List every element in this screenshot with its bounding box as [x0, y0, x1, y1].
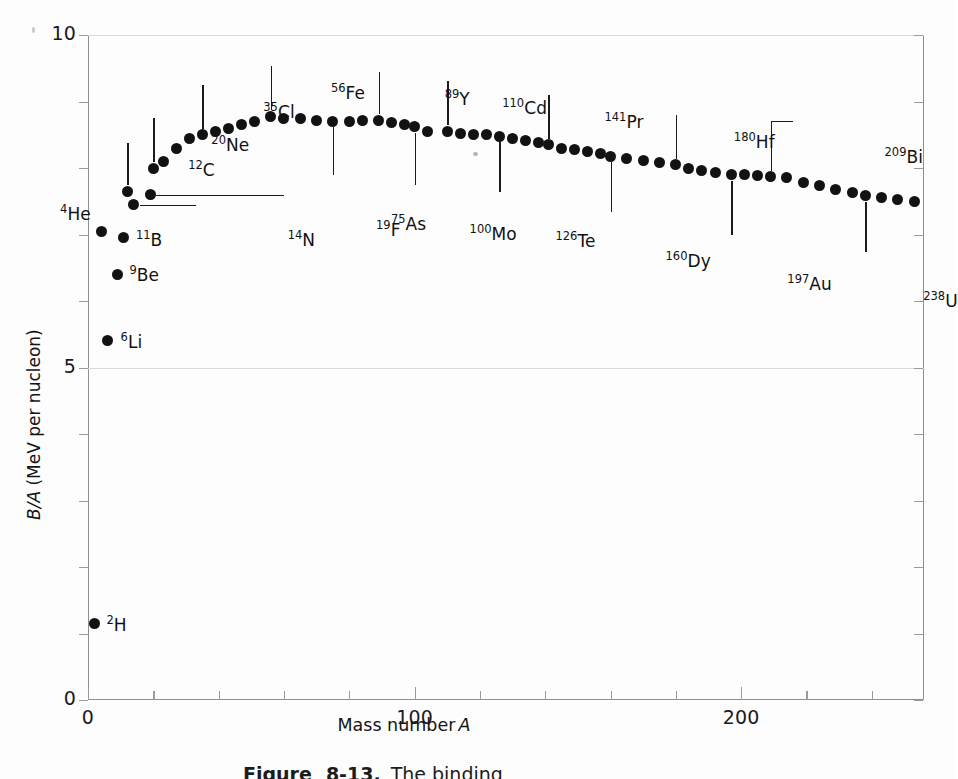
- data-point: [96, 226, 107, 237]
- data-point: [909, 196, 920, 207]
- y-tick-right: [914, 102, 923, 103]
- caption-text: The binding: [391, 763, 503, 779]
- data-point: [122, 186, 133, 197]
- plot-area: 2H6Li9Be11B4He12C20Ne35Cl56Fe89Y110Cd141…: [88, 35, 924, 700]
- y-tick-right: [914, 301, 923, 302]
- leader-line: [771, 121, 793, 122]
- y-tick-right: [914, 434, 923, 435]
- data-point: [112, 269, 123, 280]
- nuclide-label-197Au: 197Au: [787, 272, 832, 294]
- x-axis-title: Mass numberA: [338, 715, 471, 735]
- data-point: [128, 199, 139, 210]
- leader-line: [611, 162, 612, 212]
- data-point: [357, 115, 368, 126]
- data-point: [158, 156, 169, 167]
- data-point: [654, 157, 665, 168]
- y-tick-right: [914, 35, 923, 36]
- data-point: [847, 187, 858, 198]
- nuclide-label-19F: 19F: [376, 218, 401, 240]
- leader-line: [202, 85, 203, 129]
- data-point: [468, 129, 479, 140]
- nuclide-label-2H: 2H: [107, 613, 127, 635]
- data-point: [752, 170, 763, 181]
- data-point: [295, 113, 306, 124]
- leader-line: [415, 133, 416, 185]
- nuclide-label-141Pr: 141Pr: [604, 110, 643, 132]
- leader-line: [499, 142, 500, 192]
- data-point: [670, 159, 681, 170]
- nuclide-label-160Dy: 160Dy: [666, 249, 711, 271]
- nuclide-label-100Mo: 100Mo: [470, 222, 517, 244]
- data-point: [876, 192, 887, 203]
- x-tick: [219, 691, 220, 700]
- nuclide-label-89Y: 89Y: [445, 87, 470, 109]
- nuclide-label-9Be: 9Be: [129, 263, 159, 285]
- data-point: [148, 163, 159, 174]
- y-tick-right: [914, 700, 923, 701]
- leader-line: [548, 95, 549, 139]
- nuclide-label-14N: 14N: [288, 228, 315, 250]
- data-point: [710, 167, 721, 178]
- leader-line: [676, 115, 677, 159]
- nuclide-label-20Ne: 20Ne: [211, 133, 249, 155]
- y-tick: [79, 235, 88, 236]
- data-point: [605, 151, 616, 162]
- data-point: [507, 133, 518, 144]
- nuclide-label-6Li: 6Li: [121, 330, 143, 352]
- data-point: [102, 335, 113, 346]
- data-point: [409, 121, 420, 132]
- leader-line: [333, 127, 334, 175]
- leader-line: [731, 181, 732, 235]
- y-tick-label: 10: [6, 22, 76, 44]
- gridline-y: [88, 368, 924, 369]
- data-point: [726, 169, 737, 180]
- x-tick: [545, 691, 546, 700]
- data-point: [442, 126, 453, 137]
- data-point: [683, 163, 694, 174]
- leader-line: [140, 205, 196, 206]
- nuclide-label-35Cl: 35Cl: [263, 100, 294, 122]
- data-point: [422, 126, 433, 137]
- x-tick: [153, 691, 154, 700]
- leader-line: [379, 72, 380, 114]
- data-point: [118, 232, 129, 243]
- data-point: [236, 119, 247, 130]
- data-point: [327, 116, 338, 127]
- data-point: [171, 143, 182, 154]
- data-point: [582, 146, 593, 157]
- caption-label: Figure: [243, 763, 312, 779]
- x-tick: [872, 691, 873, 700]
- data-point: [184, 133, 195, 144]
- y-tick-right: [914, 168, 923, 169]
- x-tick: [741, 687, 742, 700]
- y-tick: [79, 368, 88, 369]
- nuclide-label-4He: 4He: [60, 202, 91, 224]
- data-point: [814, 180, 825, 191]
- nuclide-label-11B: 11B: [136, 228, 162, 250]
- nuclide-label-110Cd: 110Cd: [502, 96, 547, 118]
- y-axis-title-units: (MeV per nucleon): [24, 329, 44, 491]
- data-point: [386, 117, 397, 128]
- data-point: [696, 165, 707, 176]
- y-tick: [79, 102, 88, 103]
- data-point: [197, 129, 208, 140]
- nuclide-label-12C: 12C: [188, 158, 215, 180]
- data-point: [569, 144, 580, 155]
- x-axis-line: [88, 699, 924, 700]
- leader-line: [153, 118, 154, 162]
- y-tick-right: [914, 567, 923, 568]
- data-point: [638, 155, 649, 166]
- data-point: [621, 153, 632, 164]
- leader-line: [127, 143, 128, 185]
- y-tick: [79, 567, 88, 568]
- data-point: [798, 177, 809, 188]
- data-point: [830, 184, 841, 195]
- data-point: [892, 194, 903, 205]
- data-point: [373, 115, 384, 126]
- data-point: [89, 618, 100, 629]
- y-tick: [79, 35, 88, 36]
- nuclide-label-180Hf: 180Hf: [734, 130, 775, 152]
- x-axis-title-text: Mass number: [338, 715, 456, 735]
- y-tick-right: [914, 368, 923, 369]
